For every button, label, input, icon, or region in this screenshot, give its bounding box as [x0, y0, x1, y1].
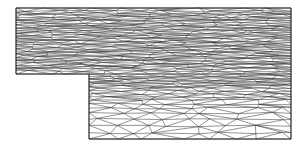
mesh-edge [166, 119, 190, 127]
mesh-edge [199, 126, 226, 127]
mesh-edge [236, 134, 256, 139]
mesh-edge [237, 119, 256, 125]
mesh-edge [237, 114, 239, 119]
mesh-edge [149, 90, 169, 94]
mesh-edge [192, 109, 199, 114]
mesh-edge [141, 11, 150, 13]
mesh-edge [192, 104, 194, 108]
mesh-edge [89, 103, 111, 107]
mesh-edge [194, 104, 227, 105]
mesh-edge [183, 84, 201, 86]
mesh-edge [237, 119, 284, 120]
mesh-edge [246, 95, 268, 97]
mesh-edge [282, 107, 291, 113]
mesh-edge [89, 108, 111, 113]
mesh-edge [209, 132, 218, 139]
mesh-edge [72, 33, 81, 35]
mesh-edge [89, 90, 94, 93]
mesh-edge [109, 74, 113, 76]
mesh-edge [97, 113, 124, 118]
mesh-edge [204, 55, 214, 57]
mesh-edge [97, 118, 134, 119]
mesh-edge [244, 39, 252, 41]
mesh-edge [242, 95, 246, 98]
mesh-edge [107, 95, 142, 97]
mesh-edge [194, 31, 206, 34]
mesh-edge [270, 86, 271, 89]
mesh-edge [183, 71, 202, 74]
mesh-edge [111, 103, 118, 107]
mesh-edge [33, 62, 67, 63]
mesh-edge [192, 49, 219, 50]
mesh-edge [175, 27, 203, 29]
mesh-edge [89, 125, 110, 133]
mesh-edge [271, 59, 274, 62]
mesh-edge [134, 109, 151, 113]
mesh-edge [284, 120, 291, 127]
mesh-edge [179, 78, 197, 80]
mesh-edge [199, 134, 209, 139]
mesh-edge [118, 134, 134, 139]
mesh-edge [16, 47, 32, 49]
mesh-edge [60, 40, 73, 42]
mesh-edge [144, 21, 162, 23]
mesh-edge [286, 99, 291, 104]
mesh-edge [89, 108, 111, 109]
mesh-edge [258, 108, 273, 113]
mesh-edge [72, 31, 85, 33]
mesh-edge [16, 29, 37, 31]
mesh-edge [218, 132, 236, 139]
mesh-edge [271, 51, 291, 52]
mesh-edge [267, 23, 291, 25]
mesh-edge [273, 107, 283, 112]
mesh-edge [271, 61, 291, 62]
mesh-edge [205, 71, 213, 74]
mesh-edge [103, 61, 131, 63]
mesh-edge [32, 42, 34, 44]
mesh-edge [59, 69, 62, 72]
mesh-edge [172, 82, 176, 84]
mesh-edge [216, 39, 224, 42]
mesh-edge [143, 104, 159, 108]
mesh-edge [116, 15, 150, 16]
mesh-edge [172, 84, 181, 87]
mesh-edge [16, 23, 29, 25]
mesh-edge [245, 72, 265, 74]
mesh-edge [120, 57, 124, 60]
mesh-edge [105, 57, 120, 60]
mesh-edge [162, 21, 175, 23]
mesh-edge [156, 43, 180, 45]
mesh-edge [211, 88, 225, 91]
mesh-edge [16, 66, 37, 68]
mesh-edge [75, 13, 100, 15]
mesh-edge [89, 113, 124, 114]
mesh-edge [227, 100, 259, 105]
mesh-edge [225, 119, 236, 126]
mesh-edge [152, 97, 183, 99]
mesh-edge [60, 43, 80, 44]
mesh-edge [188, 74, 200, 76]
mesh-edge [114, 42, 117, 45]
mesh-edge [203, 27, 204, 29]
mesh-edge [201, 71, 205, 74]
mesh-edge [244, 72, 245, 74]
mesh-edge [141, 133, 152, 139]
mesh-edge [218, 132, 256, 134]
mesh-edge [254, 79, 257, 81]
mesh-edge [167, 74, 188, 76]
mesh-edge [170, 51, 195, 53]
mesh-edge [92, 100, 118, 103]
mesh-edge [151, 109, 159, 113]
mesh-edge [212, 43, 249, 44]
mesh-edge [199, 91, 213, 93]
mesh-edge [134, 134, 142, 139]
mesh-edge [162, 113, 184, 119]
mesh-edge [100, 11, 117, 13]
mesh-edge [149, 120, 162, 126]
mesh-edge [110, 125, 117, 133]
mesh-edge [225, 88, 252, 91]
mesh-edge [193, 15, 221, 16]
mesh-edge [37, 29, 48, 31]
mesh-edge [115, 71, 140, 74]
mesh-edge [20, 37, 51, 38]
